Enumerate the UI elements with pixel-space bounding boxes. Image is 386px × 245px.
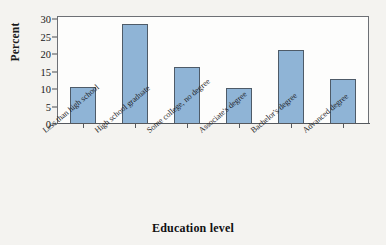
- y-tick-label: 15: [41, 66, 52, 77]
- bars-container: [57, 16, 369, 124]
- x-tick-mark: [135, 124, 136, 128]
- x-tick-mark: [239, 124, 240, 128]
- x-tick-label-wrap: Advanced degree: [301, 128, 302, 129]
- x-tick-label-wrap: Bachelor's degree: [249, 128, 250, 129]
- x-tick-label-wrap: Less than high school: [41, 128, 42, 129]
- x-tick-mark: [291, 124, 292, 128]
- y-tick-label: 5: [46, 101, 51, 112]
- y-tick-label: 10: [41, 84, 52, 95]
- y-tick-label: 30: [41, 14, 52, 25]
- x-tick-label-wrap: Some college, no degree: [145, 128, 146, 129]
- y-tick-label: 20: [41, 49, 52, 60]
- x-tick-label-wrap: Associate's degree: [197, 128, 198, 129]
- x-tick-mark: [83, 124, 84, 128]
- bar: [278, 50, 304, 124]
- x-tick-label-wrap: High school graduate: [93, 128, 94, 129]
- y-axis-ticks: 051015202530: [0, 0, 57, 124]
- x-axis-title: Education level: [0, 221, 386, 236]
- bar-chart: Percent 051015202530 Education level Les…: [0, 0, 386, 245]
- y-tick-label: 25: [41, 31, 52, 42]
- x-tick-mark: [343, 124, 344, 128]
- x-tick-mark: [187, 124, 188, 128]
